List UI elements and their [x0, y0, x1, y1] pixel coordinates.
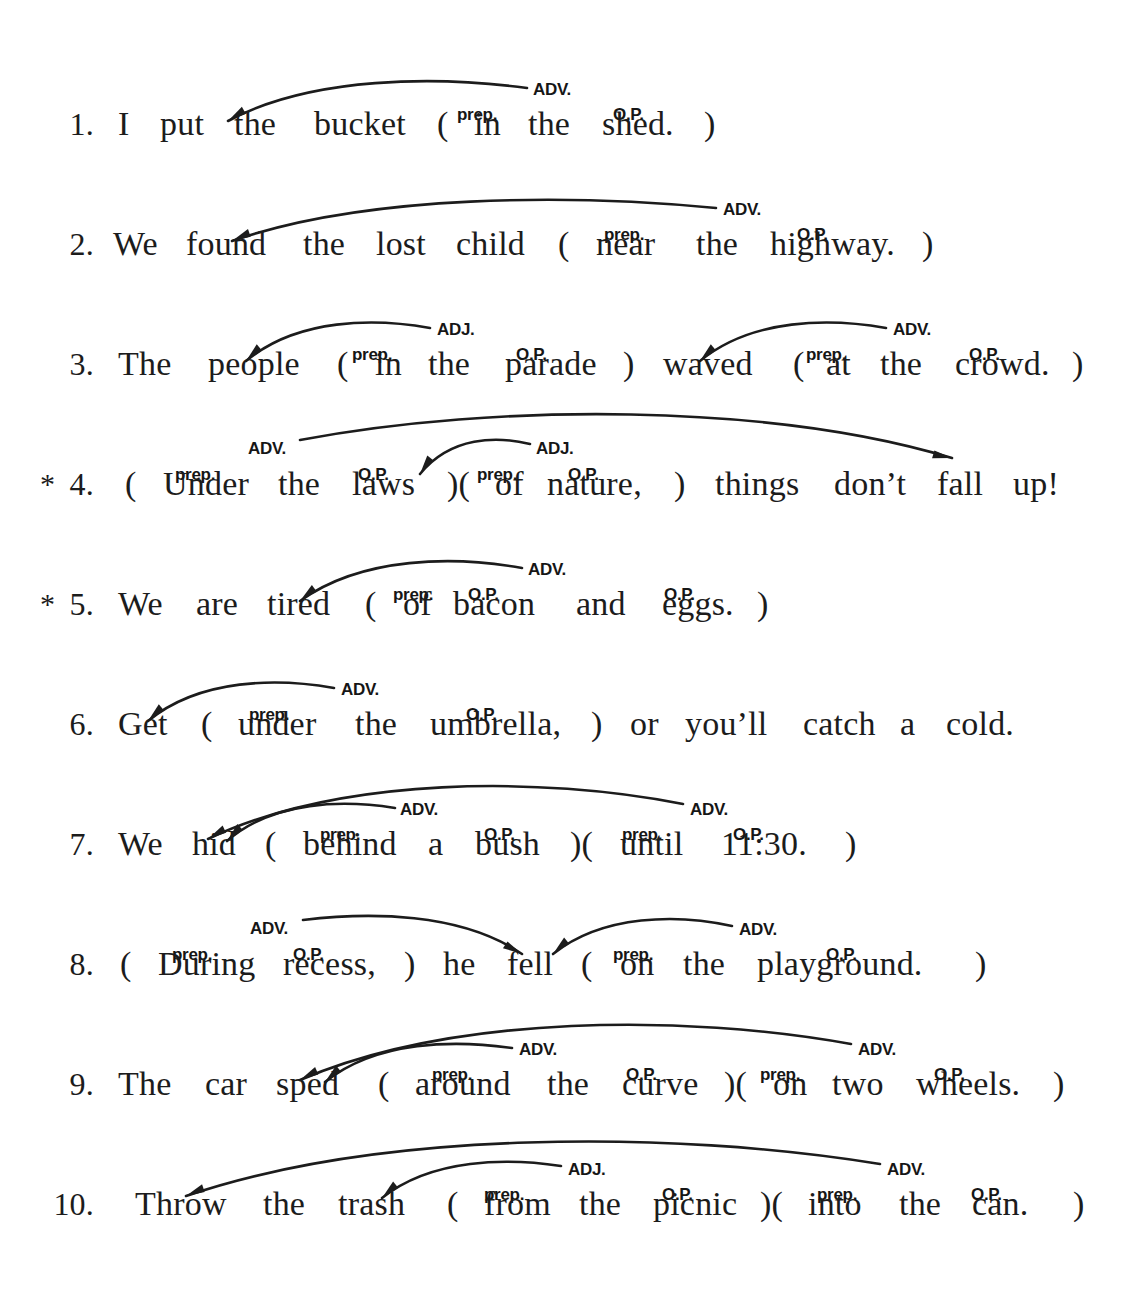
sentence-word: (	[120, 940, 132, 988]
sentence-word: Under	[163, 460, 249, 508]
sentence-word: )	[1073, 1180, 1085, 1228]
sentence-word: a	[428, 820, 443, 868]
sentence-word: things	[715, 460, 799, 508]
sentence-word: fell	[507, 940, 553, 988]
sentence-line: 10.Throwthetrash(fromthepicnic)(intothec…	[0, 1180, 1137, 1228]
sentence-word: of	[495, 460, 524, 508]
sentence-word: wheels.	[916, 1060, 1020, 1108]
sentence-word: the	[579, 1180, 621, 1228]
sentence-word: and	[576, 580, 626, 628]
sentence-word: the	[899, 1180, 941, 1228]
sentence-word: I	[118, 100, 130, 148]
grammar-label: ADV.	[341, 681, 379, 698]
sentence-word: the	[303, 220, 345, 268]
exercise-item: prep.O.P.ADV.6.Get(undertheumbrella,)ory…	[0, 628, 1137, 748]
sentence-word: hid	[192, 820, 236, 868]
sentence-word: )	[1072, 340, 1084, 388]
sentence-word: We	[118, 820, 163, 868]
sentence-word: can.	[972, 1180, 1028, 1228]
modifier-arrow-head	[932, 451, 952, 459]
sentence-word: under	[238, 700, 316, 748]
sentence-word: laws	[352, 460, 415, 508]
modifier-arrow-curve	[300, 414, 952, 458]
sentence-word: cold.	[946, 700, 1014, 748]
sentence-word: in	[375, 340, 402, 388]
item-number: 4.	[28, 460, 94, 508]
sentence-word: the	[355, 700, 397, 748]
item-number: 5.	[28, 580, 94, 628]
sentence-word: near	[596, 220, 655, 268]
sentence-line: 9.Thecarsped(aroundthecurve)(ontwowheels…	[0, 1060, 1137, 1108]
grammar-label: ADV.	[723, 201, 761, 218]
sentence-word: parade	[505, 340, 597, 388]
item-number: 9.	[28, 1060, 94, 1108]
grammar-label: ADJ.	[568, 1161, 606, 1178]
sentence-line: 8.(Duringrecess,)hefell(ontheplayground.…	[0, 940, 1137, 988]
sentence-word: )	[922, 220, 934, 268]
sentence-word: on	[773, 1060, 807, 1108]
sentence-word: We	[118, 580, 163, 628]
item-number: 2.	[28, 220, 94, 268]
grammar-label: ADV.	[519, 1041, 557, 1058]
sentence-word: (	[558, 220, 570, 268]
sentence-word: catch	[803, 700, 876, 748]
sentence-word: bacon	[453, 580, 535, 628]
sentence-word: )	[591, 700, 603, 748]
sentence-word: (	[378, 1060, 390, 1108]
item-number: 1.	[28, 100, 94, 148]
sentence-word: waved	[663, 340, 753, 388]
sentence-word: Get	[118, 700, 168, 748]
sentence-word: tired	[267, 580, 330, 628]
sentence-word: found	[186, 220, 266, 268]
sentence-word: )(	[570, 820, 593, 868]
item-number: 8.	[28, 940, 94, 988]
sentence-word: people	[208, 340, 300, 388]
sentence-word: a	[900, 700, 915, 748]
grammar-label: ADV.	[887, 1161, 925, 1178]
sentence-word: the	[428, 340, 470, 388]
sentence-word: up!	[1013, 460, 1059, 508]
worksheet-page: prep.O.P.ADV.1.Iputthebucket(intheshed.)…	[0, 0, 1137, 1291]
sentence-line: 1.Iputthebucket(intheshed.)	[0, 100, 1137, 148]
sentence-word: The	[118, 1060, 171, 1108]
sentence-word: )	[704, 100, 716, 148]
sentence-line: *5.Wearetired(ofbaconandeggs.)	[0, 580, 1137, 628]
sentence-word: During	[158, 940, 256, 988]
sentence-word: the	[683, 940, 725, 988]
grammar-label: ADV.	[893, 321, 931, 338]
sentence-word: bucket	[314, 100, 406, 148]
exercise-item: prep.O.P.ADV.2.Wefoundthelostchild(neart…	[0, 148, 1137, 268]
sentence-word: We	[113, 220, 158, 268]
exercise-item: prep.O.P.O.P.ADV.*5.Wearetired(ofbaconan…	[0, 508, 1137, 628]
sentence-word: )	[404, 940, 416, 988]
grammar-label: ADJ.	[536, 440, 574, 457]
sentence-word: of	[403, 580, 432, 628]
sentence-word: (	[201, 700, 213, 748]
sentence-word: the	[528, 100, 570, 148]
sentence-word: the	[278, 460, 320, 508]
exercise-item: prep.O.P.ADJ.prep.O.P.ADV.10.Throwthetra…	[0, 1108, 1137, 1228]
sentence-word: (	[125, 460, 137, 508]
sentence-word: or	[630, 700, 659, 748]
exercise-item: prep.O.P.ADV.prep.O.P.ADV.7.Wehid(behind…	[0, 748, 1137, 868]
item-number: 3.	[28, 340, 94, 388]
sentence-word: (	[581, 940, 593, 988]
item-number: 6.	[28, 700, 94, 748]
grammar-label: ADV.	[690, 801, 728, 818]
sentence-word: in	[474, 100, 501, 148]
sentence-line: *4.(Underthelaws)(ofnature,)thingsdon’tf…	[0, 460, 1137, 508]
sentence-word: umbrella,	[430, 700, 561, 748]
sentence-word: picnic	[653, 1180, 737, 1228]
sentence-word: fall	[937, 460, 983, 508]
sentence-word: the	[880, 340, 922, 388]
sentence-word: (	[447, 1180, 459, 1228]
sentence-word: )	[674, 460, 686, 508]
grammar-label: ADV.	[528, 561, 566, 578]
sentence-word: from	[484, 1180, 551, 1228]
sentence-word: behind	[303, 820, 397, 868]
sentence-word: trash	[338, 1180, 405, 1228]
sentence-word: child	[456, 220, 525, 268]
exercise-item: prep.O.P.ADJ.prep.O.P.ADV.3.Thepeople(in…	[0, 268, 1137, 388]
grammar-label: ADV.	[248, 440, 286, 457]
sentence-word: )(	[724, 1060, 747, 1108]
